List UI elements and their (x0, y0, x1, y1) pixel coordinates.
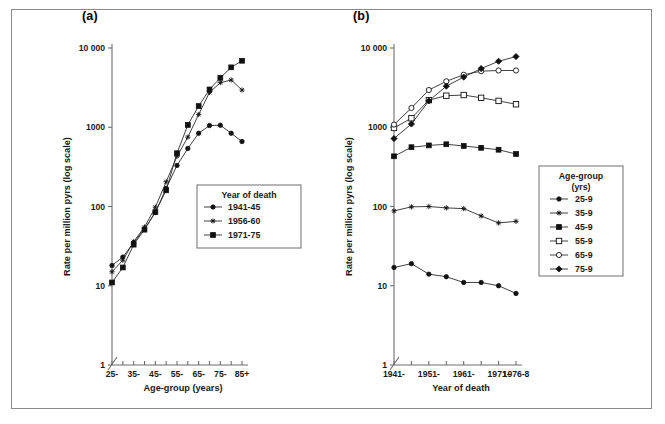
data-point (185, 123, 190, 128)
data-point (461, 144, 466, 149)
data-point (427, 272, 431, 276)
legend-title: Age-group (559, 171, 604, 181)
data-point (444, 142, 449, 147)
data-point (120, 258, 125, 263)
data-point (513, 219, 518, 224)
data-point (175, 151, 180, 156)
data-point (196, 104, 201, 109)
x-tick-label: 1941- (383, 369, 405, 379)
x-axis-title: Age-group (years) (143, 383, 222, 393)
legend-item-label: 75-9 (575, 264, 593, 274)
data-point (207, 87, 212, 92)
data-point (409, 145, 414, 150)
y-tick-label: 10 (95, 281, 105, 291)
data-point (426, 204, 431, 209)
data-point (514, 291, 518, 295)
data-point (462, 280, 466, 284)
legend-title: Year of death (221, 190, 276, 200)
y-tick-label: 10 000 (79, 43, 106, 53)
data-point (496, 220, 501, 225)
legend-item-label: 1941-45 (228, 202, 260, 212)
data-point (142, 227, 147, 232)
series-line (112, 61, 242, 283)
data-point (496, 98, 501, 103)
data-point (186, 146, 190, 150)
data-point (218, 75, 223, 80)
data-point (229, 77, 234, 82)
panel-b: 10 00010001001011941-1951-1961-1971-1976… (330, 9, 652, 409)
data-point (240, 139, 244, 143)
data-point (409, 261, 413, 265)
legend-marker (211, 233, 216, 238)
x-tick-label: 65- (192, 369, 205, 379)
panel-b-plot: 10 00010001001011941-1951-1961-1971-1976… (330, 9, 652, 409)
x-tick-label: 75- (214, 369, 227, 379)
legend-title-line2: (yrs) (571, 182, 590, 192)
data-point (131, 242, 136, 247)
data-point (218, 80, 223, 85)
x-tick-label: 1951- (418, 369, 440, 379)
figure-container: (a) (b) 10 000100010010125-35-45-55-65-7… (0, 0, 665, 424)
data-point (229, 131, 233, 135)
legend-marker (556, 238, 561, 243)
data-point (426, 143, 431, 148)
y-tick-label: 100 (91, 202, 106, 212)
data-point (495, 58, 501, 64)
data-point (109, 269, 114, 274)
legend-item-label: 65-9 (575, 250, 593, 260)
data-point (461, 206, 466, 211)
legend-marker (211, 205, 215, 209)
data-point (240, 58, 245, 63)
y-tick-label: 1000 (86, 122, 105, 132)
x-axis-title: Year of death (432, 383, 490, 393)
data-point (196, 112, 201, 117)
data-point (496, 284, 500, 288)
data-point (207, 123, 211, 127)
data-point (391, 122, 396, 127)
data-point (120, 265, 125, 270)
data-point (479, 145, 484, 150)
data-point (479, 213, 484, 218)
data-point (444, 205, 449, 210)
legend: Age-group(yrs)25-935-945-955-965-975-9 (539, 166, 623, 276)
data-point (229, 65, 234, 70)
data-point (218, 123, 222, 127)
y-tick-label: 1 (100, 360, 105, 370)
data-point (513, 53, 519, 59)
data-point (514, 152, 519, 157)
data-point (110, 263, 114, 267)
x-tick-label: 85+ (235, 369, 250, 379)
data-point (196, 131, 200, 135)
y-axis-title: Rate per million pyrs (log scale) (62, 137, 72, 276)
legend-item-label: 55-9 (575, 236, 593, 246)
x-tick-label: 45- (149, 369, 162, 379)
x-tick-label: 25- (106, 369, 119, 379)
y-tick-label: 10 (377, 281, 387, 291)
legend-item-label: 1971-75 (228, 230, 260, 240)
data-point (110, 280, 115, 285)
data-point (185, 135, 190, 140)
data-point (409, 105, 414, 110)
x-tick-label: 1976-8 (503, 369, 530, 379)
series-line (394, 264, 516, 294)
data-point (392, 154, 397, 159)
legend-marker (210, 218, 215, 223)
legend-item-label: 45-9 (575, 222, 593, 232)
x-tick-label: 55- (171, 369, 184, 379)
x-tick-label: 35- (127, 369, 140, 379)
data-point (175, 163, 179, 167)
data-point (391, 208, 396, 213)
legend-marker (556, 210, 561, 215)
data-point (513, 68, 518, 73)
data-point (461, 92, 466, 97)
panel-a: 10 000100010010125-35-45-55-65-75-85+Age… (11, 9, 341, 409)
x-tick-label: 1961- (453, 369, 475, 379)
legend-item-label: 25-9 (575, 194, 593, 204)
data-point (513, 102, 518, 107)
data-point (153, 210, 158, 215)
data-point (392, 265, 396, 269)
y-tick-label: 1000 (368, 122, 387, 132)
data-point (478, 95, 483, 100)
data-point (479, 280, 483, 284)
legend-marker (557, 225, 562, 230)
